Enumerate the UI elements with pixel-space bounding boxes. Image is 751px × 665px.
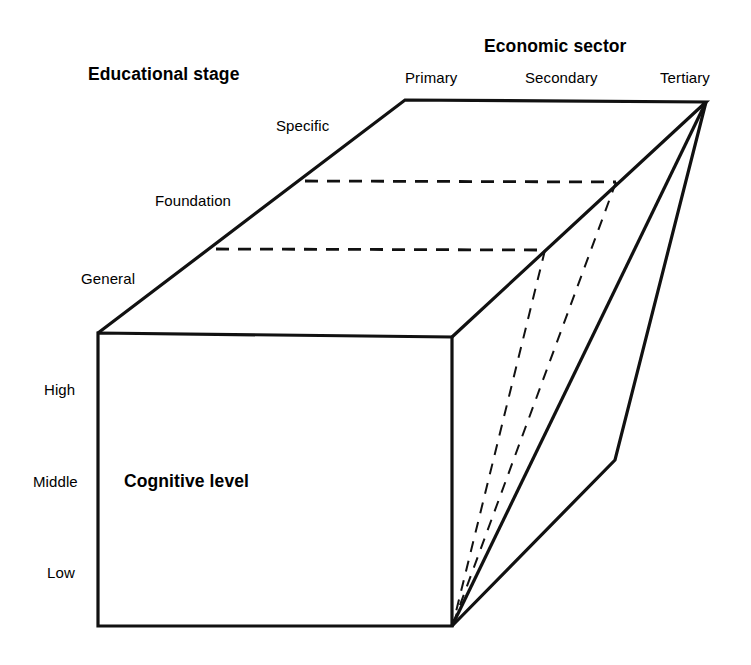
economic-sector-label-tertiary: Tertiary (660, 70, 710, 85)
cognitive-level-face-title: Cognitive level (124, 473, 249, 491)
diagram-canvas: Economic sector Primary Secondary Tertia… (0, 0, 751, 665)
economic-sector-label-primary: Primary (405, 70, 457, 85)
economic-sector-label-secondary: Secondary (525, 70, 598, 85)
cognitive-level-label-low: Low (47, 565, 75, 580)
educational-stage-label-foundation: Foundation (155, 193, 231, 208)
educational-stage-axis-title: Educational stage (88, 66, 239, 84)
educational-stage-label-specific: Specific (276, 118, 329, 133)
educational-stage-label-general: General (81, 271, 135, 286)
cognitive-level-label-high: High (44, 382, 75, 397)
economic-sector-axis-title: Economic sector (484, 38, 627, 56)
cuboid-graphic (0, 0, 751, 665)
cognitive-level-label-middle: Middle (33, 474, 78, 489)
educational-stage-divider-specific (305, 181, 616, 182)
